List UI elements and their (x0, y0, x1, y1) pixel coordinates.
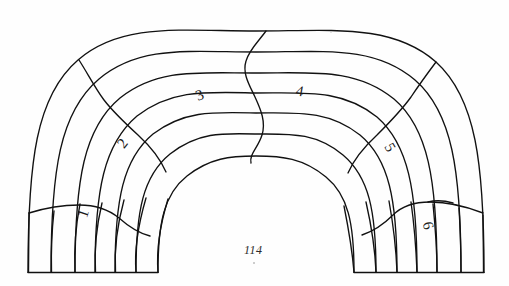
scan-speck (330, 31, 332, 33)
page-canvas: 1 2 3 4 5 6 114 (0, 0, 509, 286)
radial-joint-right-6 (459, 208, 461, 272)
zone-divider-4-5 (348, 62, 436, 173)
radial-joint-left-1 (29, 213, 30, 272)
radial-joint-left-7 (158, 199, 168, 272)
scan-speck (253, 262, 255, 264)
zone-divider-3-4 (245, 31, 266, 163)
radial-joint-left-4 (95, 203, 102, 272)
zone-divider-2-3 (79, 60, 166, 172)
ring-arc-6 (51, 51, 461, 272)
page-number: 114 (244, 243, 262, 258)
radial-joint-right-7 (483, 215, 484, 272)
radial-joint-left-5 (115, 200, 124, 272)
zone-divider-1-2 (29, 205, 150, 236)
